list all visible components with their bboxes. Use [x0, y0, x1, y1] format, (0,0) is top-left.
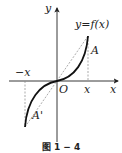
- y-axis-label: y: [44, 2, 52, 15]
- tick-neg-label: −x: [15, 66, 31, 79]
- figure-caption: 图 1 − 4: [42, 142, 80, 152]
- tick-pos-label: x: [84, 83, 91, 96]
- function-graph: y x O x −x y=f(x) A A' 图 1 − 4: [0, 0, 122, 153]
- point-a-prime-label: A': [31, 109, 43, 122]
- point-a-label: A: [90, 44, 99, 57]
- x-axis-label: x: [110, 83, 117, 96]
- function-label: y=f(x): [74, 18, 109, 31]
- origin-label: O: [59, 83, 68, 96]
